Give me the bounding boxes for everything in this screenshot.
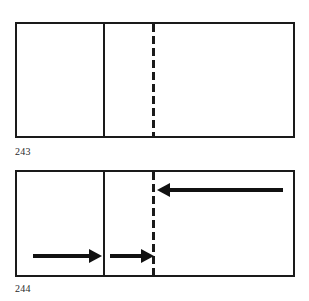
arrowhead-right-icon (89, 249, 102, 263)
arrow-shaft (33, 254, 91, 258)
arrow-shaft (168, 188, 283, 192)
arrowhead-right-icon (141, 249, 154, 263)
arrow-lower-left-segment-right-pointing-icon (33, 249, 102, 263)
figure-244-solid-crease-line (103, 170, 105, 277)
figure-243-caption: 243 (15, 146, 31, 158)
figure-243-dashed-fold-line (152, 24, 155, 136)
figure-244-caption: 244 (15, 283, 31, 295)
figure-243-outer-rectangle (15, 22, 295, 138)
arrow-lower-middle-segment-right-pointing-icon (110, 249, 154, 263)
arrow-upper-left-pointing-icon (157, 183, 283, 197)
arrow-shaft (110, 254, 143, 258)
figure-243-solid-crease-line (103, 22, 105, 138)
